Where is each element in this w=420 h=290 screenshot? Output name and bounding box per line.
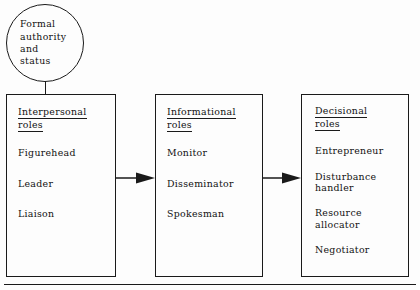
arrow-right-icon — [116, 172, 155, 184]
role-item: Entrepreneur — [315, 145, 408, 156]
box-decisional-roles: Decisional roles Entrepreneur Disturbanc… — [301, 94, 409, 277]
arrow-right-icon — [263, 172, 301, 184]
arrow-interpersonal-to-informational — [116, 172, 155, 184]
heading-informational-roles: Informational roles — [167, 106, 262, 132]
role-item: Liaison — [18, 208, 115, 219]
footer-divider — [4, 284, 416, 285]
formal-authority-circle: Formal authority and status — [6, 4, 84, 82]
heading-line-2: roles — [315, 118, 340, 131]
heading-line-1: Informational — [167, 106, 236, 119]
role-item: Disseminator — [167, 178, 262, 189]
formal-authority-label: Formal authority and status — [7, 18, 66, 68]
role-list-decisional: Entrepreneur Disturbance handler Resourc… — [315, 145, 408, 255]
box-interpersonal-roles: Interpersonal roles Figurehead Leader Li… — [6, 94, 116, 277]
role-item: Leader — [18, 178, 115, 189]
diagram-canvas: Formal authority and status Interpersona… — [0, 0, 420, 290]
role-list-informational: Monitor Disseminator Spokesman — [167, 147, 262, 219]
heading-line-2: roles — [167, 119, 192, 132]
connector-stem — [45, 81, 46, 95]
heading-line-1: Interpersonal — [18, 106, 87, 119]
role-list-interpersonal: Figurehead Leader Liaison — [18, 147, 115, 219]
heading-interpersonal-roles: Interpersonal roles — [18, 106, 115, 132]
box-informational-roles: Informational roles Monitor Disseminator… — [155, 94, 263, 277]
role-item: Spokesman — [167, 208, 262, 219]
role-item: Figurehead — [18, 147, 115, 158]
heading-decisional-roles: Decisional roles — [315, 105, 408, 131]
role-item: Resource allocator — [315, 207, 408, 230]
heading-line-1: Decisional — [315, 105, 367, 118]
role-item: Negotiator — [315, 244, 408, 255]
role-item: Monitor — [167, 147, 262, 158]
heading-line-2: roles — [18, 119, 43, 132]
arrow-informational-to-decisional — [263, 172, 301, 184]
role-item: Disturbance handler — [315, 171, 408, 194]
